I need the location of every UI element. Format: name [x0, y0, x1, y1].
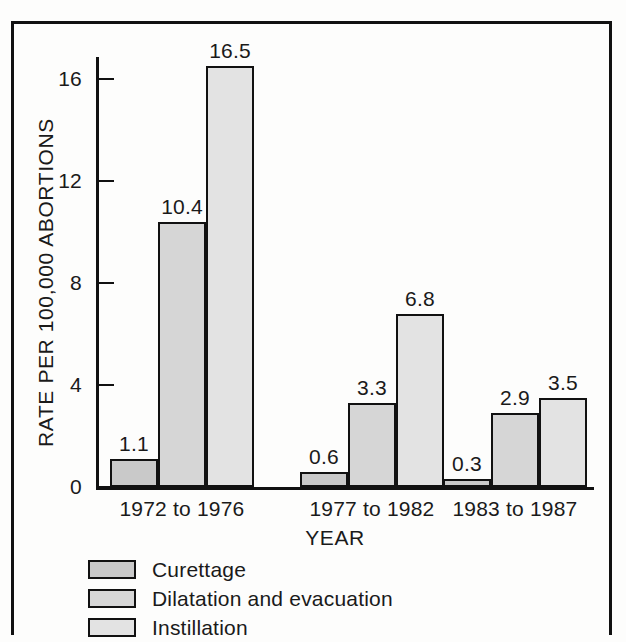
legend-item: Dilatation and evacuation	[88, 585, 548, 612]
bar	[443, 479, 491, 487]
legend-swatch	[88, 560, 136, 579]
chart-legend: CurettageDilatation and evacuationInstil…	[88, 556, 548, 642]
legend-item: Curettage	[88, 556, 548, 583]
y-tick-mark	[99, 180, 114, 182]
y-tick-label: 4	[48, 374, 82, 395]
legend-label: Curettage	[152, 559, 246, 580]
legend-swatch	[88, 589, 136, 608]
bar	[539, 398, 587, 487]
y-tick-label: 12	[48, 170, 82, 191]
x-group-label: 1972 to 1976	[82, 498, 282, 519]
chart-figure: RATE PER 100,000 ABORTIONS YEAR 0481216 …	[0, 0, 626, 642]
y-tick-mark	[99, 78, 114, 80]
y-tick-label: 16	[48, 68, 82, 89]
bar-value-label: 6.8	[382, 288, 458, 309]
bar-value-label: 16.5	[192, 40, 268, 61]
legend-label: Dilatation and evacuation	[152, 588, 393, 609]
bar	[348, 403, 396, 487]
y-tick-mark	[99, 384, 114, 386]
bar-value-label: 3.5	[525, 372, 601, 393]
y-tick-label: 8	[48, 272, 82, 293]
y-tick-label: 0	[48, 476, 82, 497]
bar	[158, 222, 206, 487]
bar	[491, 413, 539, 487]
bar	[300, 472, 348, 487]
y-tick-mark	[99, 282, 114, 284]
x-axis-line	[96, 487, 594, 490]
legend-item: Instillation	[88, 614, 548, 641]
y-axis-line	[96, 57, 99, 489]
bar	[206, 66, 254, 487]
bar	[110, 459, 158, 487]
plot-area: RATE PER 100,000 ABORTIONS YEAR 0481216 …	[0, 0, 626, 642]
x-axis-title: YEAR	[0, 527, 626, 548]
legend-swatch	[88, 618, 136, 637]
x-group-label: 1983 to 1987	[415, 498, 615, 519]
legend-label: Instillation	[152, 617, 248, 638]
